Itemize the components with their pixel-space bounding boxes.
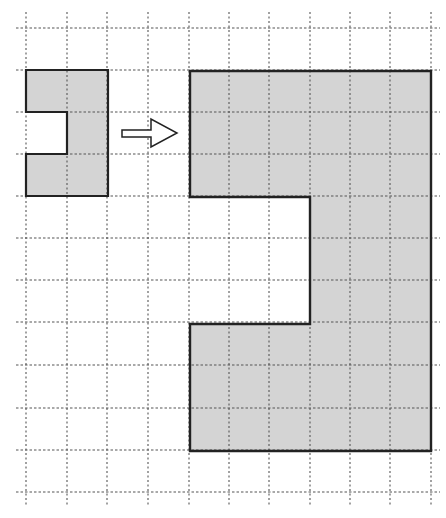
diagram-canvas <box>0 0 446 518</box>
